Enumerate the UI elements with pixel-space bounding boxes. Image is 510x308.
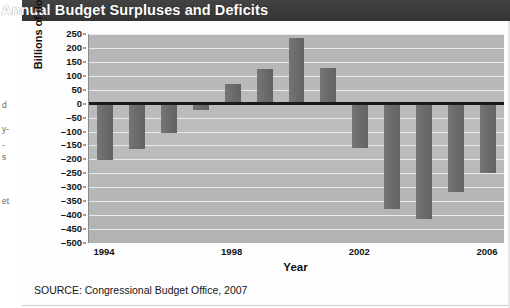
bar [225, 84, 241, 103]
x-tick-label: 2002 [349, 246, 370, 257]
y-tick-mark [83, 61, 86, 62]
margin-text-fragment: d [2, 100, 7, 110]
source-note: SOURCE: Congressional Budget Office, 200… [34, 284, 247, 296]
y-tick-mark [83, 159, 86, 160]
x-tick-label: 2006 [476, 246, 497, 257]
gridline [89, 34, 504, 35]
y-tick-label: –400 [61, 210, 82, 220]
y-tick-label: –350 [61, 196, 82, 206]
left-page-margin: dy--set [0, 0, 22, 308]
y-tick-label: –250 [61, 169, 82, 179]
figure-title-bar: Annual Budget Surpluses and Deficits [22, 0, 510, 21]
y-tick-label: 100 [66, 71, 82, 81]
y-tick-label: 150 [66, 57, 82, 67]
y-tick-mark [83, 89, 86, 90]
y-tick-mark [83, 229, 86, 230]
y-tick-mark [83, 131, 86, 132]
gridline [89, 173, 504, 174]
page-background: dy--set Annual Budget Surpluses and Defi… [0, 0, 510, 308]
y-tick-label: 200 [66, 43, 82, 53]
x-tick-label: 1994 [93, 246, 114, 257]
margin-text-fragment: y- [2, 124, 9, 134]
margin-text-fragment: - [2, 140, 5, 150]
y-tick-label: –450 [61, 224, 82, 234]
bottom-rule [22, 305, 510, 306]
gridline [89, 132, 504, 133]
y-tick-mark [83, 173, 86, 174]
figure-card: Annual Budget Surpluses and Deficits Bil… [22, 0, 510, 308]
gridline [89, 187, 504, 188]
y-tick-label: –150 [61, 141, 82, 151]
y-tick-mark [83, 201, 86, 202]
gridline [89, 215, 504, 216]
y-tick-mark [83, 75, 86, 76]
y-tick-label: –300 [61, 183, 82, 193]
y-tick-mark [83, 145, 86, 146]
bar [448, 104, 464, 193]
gridline [89, 145, 504, 146]
y-tick-mark [83, 187, 86, 188]
x-tick-label: 1998 [221, 246, 242, 257]
bar [257, 69, 273, 104]
zero-baseline [88, 102, 504, 104]
y-axis-label: Billions of dollars [32, 0, 44, 83]
y-tick-label: –50 [66, 113, 82, 123]
bar [320, 68, 336, 103]
y-tick-label: 0 [77, 99, 82, 109]
x-axis-ticks: 1994199820022006 [88, 243, 503, 261]
bar [416, 104, 432, 219]
y-tick-label: 250 [66, 29, 82, 39]
y-tick-label: –500 [61, 238, 82, 248]
bar [97, 104, 113, 161]
y-tick-label: 50 [71, 85, 82, 95]
gridline [89, 118, 504, 119]
gridline [89, 229, 504, 230]
y-tick-mark [83, 215, 86, 216]
y-tick-mark [83, 47, 86, 48]
bar [384, 104, 400, 209]
chart-body: Billions of dollars 250200150100500–50–1… [22, 21, 510, 308]
plot-area [88, 34, 504, 243]
gridline [89, 201, 504, 202]
margin-text-fragment: s [2, 152, 6, 162]
bar [129, 104, 145, 150]
y-tick-mark [83, 243, 86, 244]
bar [161, 104, 177, 134]
bar [352, 104, 368, 148]
y-tick-label: –200 [61, 155, 82, 165]
bar [480, 104, 496, 173]
y-axis-ticks: 250200150100500–50–100–150–200–250–300–3… [50, 34, 86, 243]
gridline [89, 159, 504, 160]
y-tick-mark [83, 34, 86, 35]
y-tick-label: –100 [61, 127, 82, 137]
y-tick-mark [83, 103, 86, 104]
y-tick-mark [83, 117, 86, 118]
x-axis-label: Year [88, 261, 503, 273]
bar [289, 38, 305, 104]
margin-text-fragment: et [2, 196, 9, 206]
